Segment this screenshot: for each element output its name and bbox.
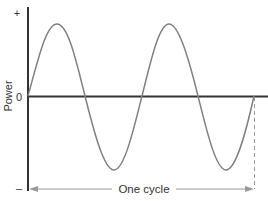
- left-arrow-icon: [29, 186, 38, 192]
- plus-label: +: [14, 7, 20, 19]
- right-arrow-icon: [245, 186, 254, 192]
- y-axis-title: Power: [2, 80, 14, 112]
- power-waveform-diagram: + 0 – Power One cycle: [0, 0, 268, 201]
- zero-label: 0: [16, 91, 22, 103]
- minus-label: –: [16, 182, 23, 194]
- cycle-label: One cycle: [118, 183, 169, 195]
